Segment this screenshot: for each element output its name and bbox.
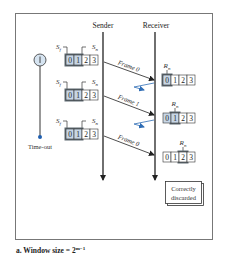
caption-prefix: a. Window size = 2 [16,246,76,255]
receiver-header: Receiver [143,21,170,30]
sequence-number: 2 [84,56,88,65]
timer-icon [34,54,46,66]
correctly-discarded-box: Correctly discarded [166,182,204,206]
sequence-number: 2 [181,76,185,85]
caption: a. Window size = 2m−1 [16,246,86,255]
go-back-n-diagram: Sender Receiver Time-out SfSn0123SfSn012… [0,0,228,259]
sequence-number: 2 [84,91,88,100]
sequence-number: 3 [92,56,96,65]
sequence-number: 0 [68,56,72,65]
sequence-number: 1 [173,153,177,162]
sequence-number: 0 [165,76,169,85]
sequence-number: 2 [84,130,88,139]
sequence-number: 3 [92,130,96,139]
sequence-number: 3 [189,76,193,85]
sequence-number: 0 [165,153,169,162]
sequence-number: 3 [92,91,96,100]
sequence-number: 2 [181,153,185,162]
timeout-label: Time-out [28,143,52,150]
sequence-number: 1 [173,114,177,123]
sender-header: Sender [93,21,114,30]
sequence-number: 2 [181,114,185,123]
sequence-number: 3 [189,153,193,162]
result-line-1: Correctly [171,185,196,192]
sequence-number: 1 [76,130,80,139]
sequence-number: 1 [173,76,177,85]
sequence-number: 0 [165,114,169,123]
sequence-number: 0 [68,130,72,139]
sequence-number: 1 [76,91,80,100]
sequence-number: 1 [76,56,80,65]
result-line-2: discarded [171,194,197,201]
sequence-number: 0 [68,91,72,100]
sequence-number: 3 [189,114,193,123]
caption-exponent: m−1 [76,246,86,251]
timeout-dot [38,135,42,139]
